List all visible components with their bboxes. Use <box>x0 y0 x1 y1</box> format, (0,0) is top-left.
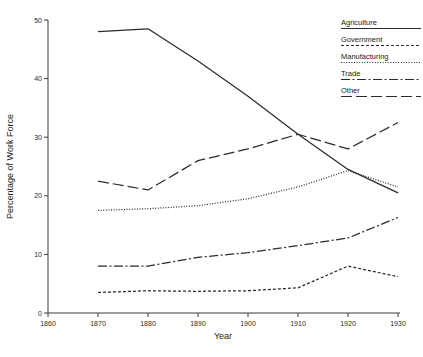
x-tick-label: 1880 <box>140 320 156 327</box>
legend-entry-trade: Trade <box>341 69 421 80</box>
y-tick-label: 40 <box>34 75 42 82</box>
y-tick-label: 10 <box>34 251 42 258</box>
series-line-government <box>98 266 398 292</box>
x-tick-label: 1890 <box>190 320 206 327</box>
legend-entry-government: Government <box>341 35 421 46</box>
y-tick-label: 0 <box>38 310 42 317</box>
y-tick-label: 20 <box>34 192 42 199</box>
x-tick-label: 1920 <box>340 320 356 327</box>
y-tick-label: 50 <box>34 17 42 24</box>
legend-entry-label: Trade <box>341 69 360 78</box>
legend-entry-label: Agriculture <box>341 18 377 27</box>
series-line-trade <box>98 217 398 266</box>
series-line-other <box>98 123 398 190</box>
legend-entry-label: Other <box>341 86 360 95</box>
legend-entry-agriculture: Agriculture <box>341 18 421 29</box>
x-axis-title: Year <box>214 331 232 341</box>
x-tick-label: 1910 <box>290 320 306 327</box>
axes-group: 0102030405018601870188018901900191019201… <box>34 17 406 328</box>
chart-container: 0102030405018601870188018901900191019201… <box>0 0 423 357</box>
axis-titles-group: YearPercentage of Work Force <box>5 114 232 341</box>
legend-entry-other: Other <box>341 86 421 97</box>
x-tick-label: 1900 <box>240 320 256 327</box>
y-axis-title: Percentage of Work Force <box>5 114 15 219</box>
x-tick-label: 1860 <box>40 320 56 327</box>
clipped-footer-text <box>14 351 244 357</box>
x-tick-label: 1870 <box>90 320 106 327</box>
legend-entry-label: Government <box>341 35 383 44</box>
legend-entry-manufacturing: Manufacturing <box>341 52 421 63</box>
line-chart-plot: 0102030405018601870188018901900191019201… <box>0 0 423 357</box>
x-tick-label: 1930 <box>390 320 406 327</box>
chart-legend: AgricultureGovernmentManufacturingTradeO… <box>341 18 421 97</box>
series-line-manufacturing <box>98 171 398 211</box>
legend-entry-label: Manufacturing <box>341 52 389 61</box>
y-tick-label: 30 <box>34 134 42 141</box>
